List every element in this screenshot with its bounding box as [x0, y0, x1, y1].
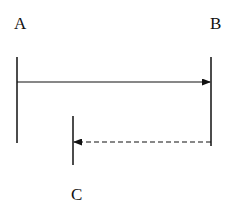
label-b: B — [210, 14, 221, 33]
label-c: C — [71, 185, 82, 204]
sequence-diagram: A B C — [0, 0, 231, 213]
label-a: A — [14, 14, 27, 33]
